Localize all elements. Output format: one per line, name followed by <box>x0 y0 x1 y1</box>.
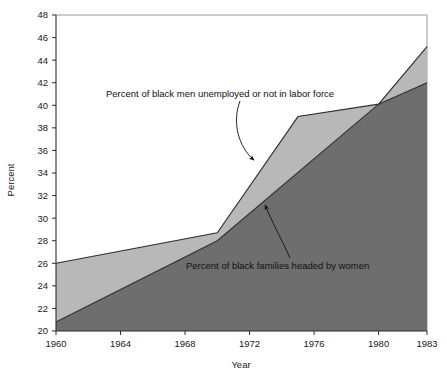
y-axis-title: Percent <box>5 163 16 196</box>
annotation-label-families-headed-by-women: Percent of black families headed by wome… <box>186 260 369 271</box>
y-tick-label: 28 <box>37 235 48 246</box>
y-tick-label: 38 <box>37 122 48 133</box>
y-tick-label: 30 <box>37 213 48 224</box>
y-tick-label: 46 <box>37 32 48 43</box>
y-tick-label: 32 <box>37 190 48 201</box>
y-tick-label: 48 <box>37 9 48 20</box>
x-axis-title: Year <box>231 359 250 370</box>
area-chart-svg: 202224262830323436384042444648 196019641… <box>0 0 447 377</box>
x-tick-label: 1976 <box>304 338 325 349</box>
y-tick-label: 24 <box>37 280 48 291</box>
y-tick-label: 34 <box>37 167 48 178</box>
x-tick-label: 1964 <box>110 338 131 349</box>
y-tick-label: 20 <box>37 325 48 336</box>
chart-figure: 202224262830323436384042444648 196019641… <box>0 0 447 377</box>
y-tick-label: 44 <box>37 55 48 66</box>
annotation-label-men-unemployed: Percent of black men unemployed or not i… <box>106 88 334 99</box>
y-tick-label: 22 <box>37 303 48 314</box>
y-tick-label: 40 <box>37 100 48 111</box>
y-tick-label: 36 <box>37 145 48 156</box>
x-tick-label: 1980 <box>368 338 389 349</box>
x-tick-label: 1960 <box>45 338 66 349</box>
x-tick-label: 1972 <box>239 338 260 349</box>
x-tick-label: 1968 <box>174 338 195 349</box>
y-tick-label: 26 <box>37 258 48 269</box>
x-tick-label: 1983 <box>416 338 437 349</box>
y-tick-label: 42 <box>37 77 48 88</box>
